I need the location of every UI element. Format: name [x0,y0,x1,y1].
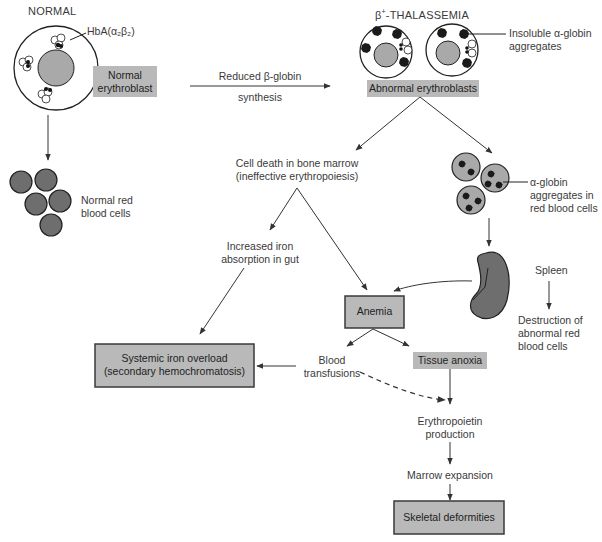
iron-overload-label-line1: Systemic iron overload [95,352,254,365]
spleen-illustration [471,252,510,318]
cell-death-label-line2: (ineffective erythropoiesis) [222,170,372,183]
iron-absorption-label-line1: Increased iron [210,240,310,253]
abnormal-rbc-cluster [452,153,528,214]
insoluble-aggregates-label-line1: Insoluble α-globin [509,27,592,40]
destruction-label-line3: blood cells [518,340,583,353]
thalassemia-erythroblast-cell-2 [426,24,506,76]
erythropoietin-label-line1: Erythropoietin [405,415,495,428]
iron-absorption-label: Increased iron absorption in gut [210,240,310,266]
abnormal-erythroblasts-label: Abnormal erythroblasts [367,82,479,95]
blood-transfusions-label: Blood transfusions [297,354,367,380]
alpha-aggregates-rbc-label: α-globin aggregates in red blood cells [530,176,598,215]
reduced-globin-label: Reduced β-globin [205,70,315,83]
spleen-label: Spleen [535,264,568,277]
normal-rbc-cluster [10,169,71,236]
normal-erythroblast-label-line2: erythroblast [93,82,157,95]
cell-death-label: Cell death in bone marrow (ineffective e… [222,157,372,183]
blood-transfusions-label-line1: Blood [297,354,367,367]
iron-overload-label: Systemic iron overload (secondary hemoch… [95,352,254,378]
insoluble-aggregates-label-line2: aggregates [509,40,592,53]
cell-death-label-line1: Cell death in bone marrow [222,157,372,170]
erythropoietin-label-line2: production [405,428,495,441]
alpha-aggregates-rbc-label-line3: red blood cells [530,202,598,215]
normal-rbc-label: Normal red blood cells [81,194,133,220]
destruction-label-line1: Destruction of [518,314,583,327]
reduced-globin-label-line1: Reduced β-globin [205,70,315,83]
normal-rbc-label-line1: Normal red [81,194,133,207]
normal-erythroblast-label-line1: Normal [93,69,157,82]
erythropoietin-label: Erythropoietin production [405,415,495,441]
reduced-globin-label-2: synthesis [205,91,315,104]
blood-transfusions-label-line2: transfusions [297,367,367,380]
anemia-label: Anemia [345,305,404,318]
normal-erythroblast-label: Normal erythroblast [93,69,157,95]
destruction-label-line2: abnormal red [518,327,583,340]
normal-title: NORMAL [28,5,76,18]
iron-overload-label-line2: (secondary hemochromatosis) [95,365,254,378]
normal-erythroblast-cell [14,26,98,110]
normal-rbc-label-line2: blood cells [81,207,133,220]
alpha-aggregates-rbc-label-line2: aggregates in [530,189,598,202]
alpha-aggregates-rbc-label-line1: α-globin [530,176,598,189]
thalassemia-erythroblast-cell-1 [360,26,412,78]
reduced-globin-label-line2: synthesis [205,91,315,104]
thalassemia-title-suffix: -THALASSEMIA [386,9,469,21]
marrow-expansion-label: Marrow expansion [395,469,505,482]
hba-label: HbA(α₂β₂) [87,25,135,38]
skeletal-deformities-label: Skeletal deformities [394,511,504,524]
thalassemia-title: β+-THALASSEMIA [375,5,469,22]
tissue-anoxia-label: Tissue anoxia [413,354,487,367]
iron-absorption-label-line2: absorption in gut [210,253,310,266]
destruction-label: Destruction of abnormal red blood cells [518,314,583,353]
insoluble-aggregates-label: Insoluble α-globin aggregates [509,27,592,53]
